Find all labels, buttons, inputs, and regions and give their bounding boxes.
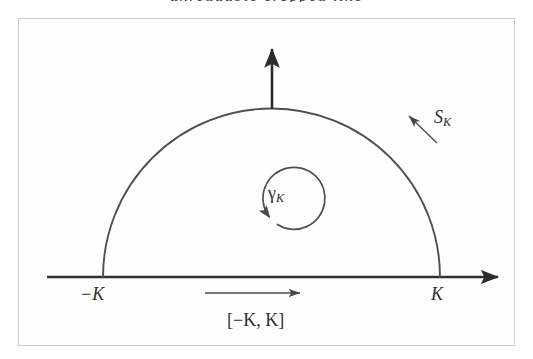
contour-diagram (0, 0, 533, 359)
label-negative-k: −K (80, 285, 104, 303)
figure-page: unreadable cropped line −K K [−K, K (0, 0, 533, 359)
label-s-k: SK (434, 108, 451, 129)
label-gamma-k: γK (268, 184, 284, 205)
label-s-glyph: S (434, 107, 443, 127)
s-k-pointer-arrow (409, 116, 437, 143)
label-positive-k: K (431, 285, 443, 303)
label-s-subscript: K (443, 115, 451, 129)
label-gamma-subscript: K (276, 191, 284, 205)
label-gamma-glyph: γ (268, 183, 276, 203)
label-interval: [−K, K] (227, 311, 284, 329)
